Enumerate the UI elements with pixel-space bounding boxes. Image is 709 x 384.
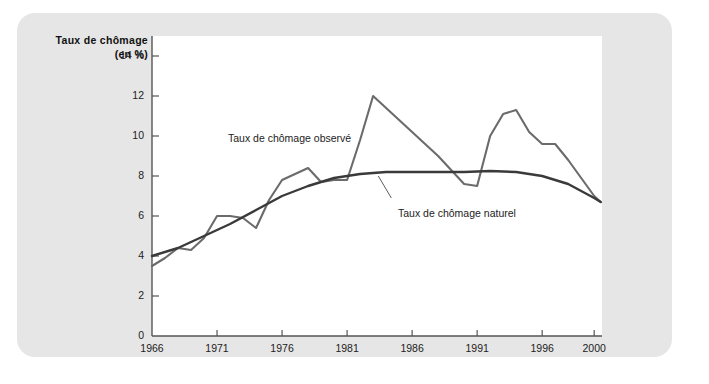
- leader-line: [378, 176, 391, 198]
- x-tick-label: 1996: [519, 342, 565, 354]
- x-tick-label: 1966: [129, 342, 175, 354]
- y-tick-label: 10: [100, 129, 144, 141]
- y-tick-label: 14 %: [100, 49, 144, 61]
- figure-container: Taux de chômage (en %) Taux de chômage o…: [0, 0, 709, 384]
- x-tick-label: 1991: [454, 342, 500, 354]
- y-tick-label: 0: [100, 329, 144, 341]
- x-tick-label: 1976: [259, 342, 305, 354]
- x-tick-label: 1981: [324, 342, 370, 354]
- series-line-observed: [152, 96, 601, 266]
- x-tick-label: 1986: [389, 342, 435, 354]
- y-tick-label: 4: [100, 249, 144, 261]
- x-tick-label: 1971: [194, 342, 240, 354]
- y-tick-label: 12: [100, 89, 144, 101]
- y-tick-label: 8: [100, 169, 144, 181]
- x-tick-label: 2000: [571, 342, 617, 354]
- annotation-leader-lines: [378, 176, 391, 198]
- y-tick-label: 6: [100, 209, 144, 221]
- axis-lines: [152, 36, 602, 336]
- y-tick-label: 2: [100, 289, 144, 301]
- series-line-natural: [152, 171, 601, 256]
- series-paths: [152, 96, 601, 266]
